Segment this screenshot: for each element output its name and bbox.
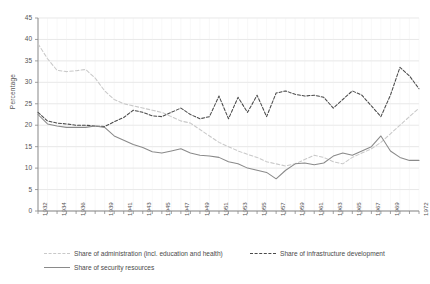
legend-swatch-security bbox=[44, 264, 70, 271]
legend-item-security[interactable]: Share of security resources bbox=[44, 264, 154, 271]
line-chart: Percentage 051015202530354045 1932193419… bbox=[0, 0, 430, 284]
legend-label-administration: Share of administration (incl. education… bbox=[74, 250, 223, 257]
legend-label-security: Share of security resources bbox=[74, 264, 154, 271]
plot-area bbox=[0, 0, 430, 284]
legend-item-infrastructure[interactable]: Share of infrastructure development bbox=[250, 250, 385, 257]
legend-swatch-infrastructure bbox=[250, 250, 276, 257]
chart-legend: Share of administration (incl. education… bbox=[0, 246, 430, 284]
legend-label-infrastructure: Share of infrastructure development bbox=[280, 250, 385, 257]
legend-item-administration[interactable]: Share of administration (incl. education… bbox=[44, 250, 223, 257]
legend-swatch-administration bbox=[44, 250, 70, 257]
